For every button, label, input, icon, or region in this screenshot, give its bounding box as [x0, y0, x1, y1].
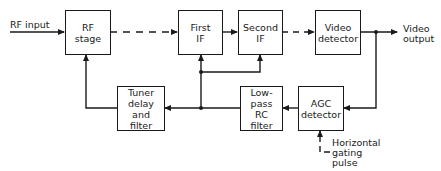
label-line: output — [403, 34, 434, 44]
block-label-line: detector — [301, 109, 341, 120]
block-label-line: filter — [250, 120, 272, 131]
block-label-line: IF — [256, 33, 264, 44]
block-label-line: Second — [243, 22, 278, 33]
block-label-line: RC — [255, 109, 268, 120]
horizontal-gating-pulse-label: Horizontal gating pulse — [332, 138, 381, 168]
video-output-label: Video output — [403, 24, 434, 44]
video-detector-block: Video detector — [315, 10, 361, 55]
block-label-line: AGC — [311, 98, 331, 109]
block-label-line: Low-pass — [241, 87, 282, 109]
rf-input-label: RF input — [10, 19, 50, 30]
block-label-line: IF — [196, 33, 204, 44]
block-label-line: detector — [318, 33, 358, 44]
block-label-line: First — [191, 22, 211, 33]
block-label-line: Video — [325, 22, 352, 33]
agc-detector-block: AGC detector — [298, 86, 344, 131]
block-label-line: delay — [128, 98, 154, 109]
second-if-block: Second IF — [238, 10, 283, 55]
block-label-line: Tuner — [128, 87, 154, 98]
label-line: pulse — [332, 158, 381, 168]
block-label-line: and — [132, 109, 150, 120]
tuner-delay-filter-block: Tuner delay and filter — [117, 86, 165, 131]
block-label-line: stage — [75, 33, 101, 44]
lowpass-rc-filter-block: Low-pass RC filter — [240, 86, 283, 131]
rf-stage-block: RF stage — [65, 10, 111, 55]
block-label-line: filter — [130, 120, 152, 131]
first-if-block: First IF — [178, 10, 223, 55]
block-label-line: RF — [82, 22, 94, 33]
